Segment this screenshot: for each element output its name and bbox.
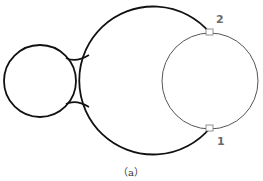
point-label-1: 1 [217, 135, 225, 148]
figure-caption: （a） [118, 167, 144, 178]
large-arc [79, 6, 210, 154]
small-circle [4, 45, 76, 117]
point-label-2: 2 [216, 13, 224, 26]
point-marker-2 [206, 29, 213, 35]
right-circle [162, 33, 258, 129]
point-marker-1 [206, 125, 213, 131]
lower-fillet [66, 102, 89, 107]
diagram-canvas: 2 1 （a） [0, 0, 263, 181]
upper-fillet [66, 55, 89, 60]
